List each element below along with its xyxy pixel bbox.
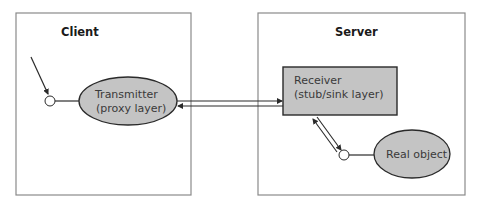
remoting-diagram: Client Server Transmitter (proxy layer) …	[0, 0, 477, 205]
server-title: Server	[335, 25, 378, 39]
client-title: Client	[61, 25, 99, 39]
real-object-label: Real object	[386, 148, 448, 161]
server-interface-icon	[339, 150, 349, 160]
receiver-label-line2: (stub/sink layer)	[294, 88, 384, 101]
transmitter-label-line2: (proxy layer)	[96, 102, 166, 115]
transmitter-node: Transmitter (proxy layer)	[79, 77, 177, 125]
real-object-node: Real object	[374, 130, 450, 178]
receiver-label-line1: Receiver	[294, 74, 342, 87]
receiver-node: Receiver (stub/sink layer)	[283, 67, 397, 115]
client-interface-icon	[45, 96, 55, 106]
transmitter-label-line1: Transmitter	[94, 88, 158, 101]
